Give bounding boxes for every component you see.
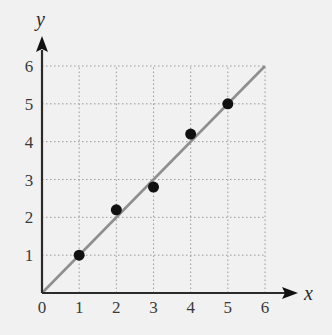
y-tick-label: 1: [25, 246, 34, 265]
x-tick-label: 2: [112, 298, 121, 317]
scatter-chart: 0123456 123456 x y: [0, 0, 332, 335]
y-tick-label: 6: [25, 57, 34, 76]
y-axis-label: y: [34, 8, 45, 31]
y-tick-labels: 123456: [25, 57, 34, 265]
x-tick-label: 6: [261, 298, 270, 317]
x-tick-labels: 0123456: [38, 298, 270, 317]
y-tick-label: 3: [25, 171, 34, 190]
y-tick-label: 4: [25, 133, 34, 152]
y-tick-label: 5: [25, 95, 34, 114]
data-point: [74, 250, 85, 261]
x-tick-label: 1: [75, 298, 84, 317]
x-tick-label: 5: [224, 298, 233, 317]
data-point: [185, 129, 196, 140]
data-point: [111, 204, 122, 215]
x-tick-label: 3: [149, 298, 158, 317]
data-point: [148, 182, 159, 193]
x-tick-label: 4: [186, 298, 195, 317]
x-tick-label: 0: [38, 298, 47, 317]
y-axis-arrow-icon: [36, 36, 48, 52]
x-axis-label: x: [303, 282, 313, 304]
y-tick-label: 2: [25, 208, 34, 227]
data-point: [222, 98, 233, 109]
